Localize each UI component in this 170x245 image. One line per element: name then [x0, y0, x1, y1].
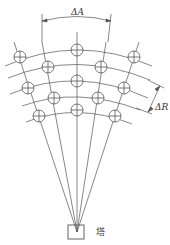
delta-r-extension-top [148, 80, 164, 88]
arrowhead [155, 86, 160, 91]
cell-circle-icon [71, 104, 83, 116]
cell-circle-icon [22, 82, 34, 94]
delta-r-label: ΔR [154, 102, 168, 112]
radar-grid-diagram: ΔA ΔR 塔 [0, 0, 170, 245]
cell-circle-icon [42, 61, 54, 73]
cell-circle-icon [48, 92, 60, 104]
arrowhead [148, 107, 153, 112]
delta-a-extension-right [108, 14, 111, 42]
delta-a-label: ΔA [70, 7, 84, 17]
tower-label: 塔 [96, 226, 105, 237]
delta-a-dimension-arc [42, 17, 111, 22]
arrowhead [42, 19, 47, 22]
cell-circle-icon [14, 51, 26, 63]
cell-circle-icon [71, 75, 83, 87]
cell-circle-icon [71, 44, 83, 56]
cell-circle-icon [118, 82, 130, 94]
cell-circle-icon [109, 110, 121, 122]
cell-circle-icon [95, 61, 107, 73]
cell-circle-icon [92, 92, 104, 104]
beam-line-5 [77, 42, 139, 232]
cell-circle-icon [33, 110, 45, 122]
cell-circle-icon [128, 51, 140, 63]
